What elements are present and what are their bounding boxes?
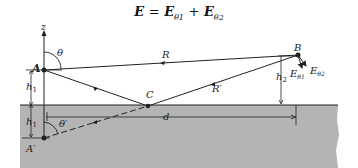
label-B: B	[293, 42, 301, 53]
label-d: d	[163, 111, 169, 122]
label-A-prime: A′	[25, 143, 36, 154]
label-C: C	[146, 89, 154, 100]
label-E-theta2: Eθ2	[309, 65, 325, 77]
label-E-theta1: Eθ1	[289, 68, 305, 80]
point-C	[146, 104, 150, 108]
label-theta: θ	[57, 47, 63, 58]
two-ray-diagram: z θ R B A h1 h1 C R′ h2 Eθ1 Eθ2 θ′ d A′	[0, 0, 358, 168]
label-R-prime: R′	[211, 83, 223, 94]
label-A: A	[31, 62, 41, 75]
label-h2: h2	[276, 71, 287, 84]
label-R: R	[161, 49, 170, 60]
label-theta-prime: θ′	[59, 118, 68, 129]
ground-region	[20, 105, 339, 168]
label-h1-top: h1	[26, 81, 37, 94]
label-z: z	[40, 22, 46, 32]
